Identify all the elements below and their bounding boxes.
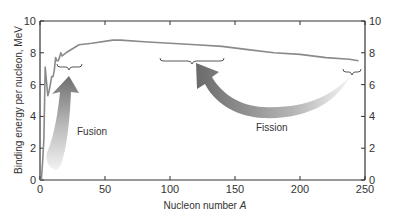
heavy-nuclei-bracket [343,69,361,75]
fusion-arrow-shape [46,76,79,170]
y-tick-label-left: 6 [30,79,36,91]
x-tick-label: 0 [37,183,43,195]
y-tick-label-right: 10 [369,15,381,27]
y-tick-label-left: 8 [30,47,36,59]
fusion-arrow [46,76,79,170]
x-axis-variable: A [239,200,247,211]
fission-target-bracket [160,58,224,64]
y-tick-label-right: 2 [369,142,375,154]
fusion-label: Fusion [77,126,107,137]
fusion-bracket [57,64,82,70]
y-tick-label-right: 6 [369,79,375,91]
y-tick-label-left: 4 [30,110,36,122]
binding-energy-chart: 050100150200250 00224466881010 Fusion Fi… [0,0,395,218]
x-axis-title-text: Nucleon number [164,200,240,211]
x-tick-label: 100 [161,183,179,195]
y-tick-label-right: 0 [369,174,375,186]
fission-arrow-shape [196,63,350,118]
y-tick-label-right: 8 [369,47,375,59]
y-tick-label-left: 10 [24,15,36,27]
fission-arrow [196,63,350,118]
x-ticks: 050100150200250 [37,21,374,195]
fission-label: Fission [256,122,288,133]
y-tick-label-right: 4 [369,110,375,122]
y-tick-label-left: 0 [30,174,36,186]
y-axis-title: Binding energy per nucleon, MeV [13,26,24,174]
y-tick-label-left: 2 [30,142,36,154]
x-tick-label: 50 [99,183,111,195]
x-tick-label: 200 [291,183,309,195]
x-axis-title: Nucleon number A [164,200,247,211]
x-tick-label: 150 [226,183,244,195]
